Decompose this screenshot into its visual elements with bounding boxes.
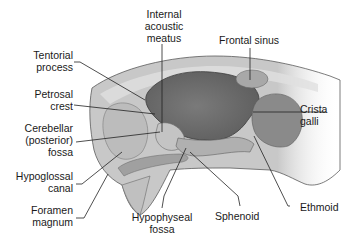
label-line: meatus [142, 32, 186, 44]
label-foramen-magnum: Foramen magnum [6, 204, 73, 228]
label-line: Crista [300, 103, 327, 115]
label-line: fossa [6, 146, 73, 158]
label-line: Tentorial [6, 49, 73, 61]
ethmoid-shape [252, 94, 302, 147]
label-cerebellar-fossa: Cerebellar (posterior) fossa [6, 122, 73, 158]
label-line: acoustic [142, 20, 186, 32]
label-sphenoid: Sphenoid [215, 210, 259, 222]
label-hypoglossal-canal: Hypoglossal canal [6, 170, 73, 194]
label-line: Hypophyseal [124, 211, 200, 223]
label-line: canal [6, 182, 73, 194]
label-line: Foramen [6, 204, 73, 216]
label-line: magnum [6, 216, 73, 228]
label-line: Cerebellar [6, 122, 73, 134]
label-line: fossa [124, 223, 200, 235]
label-ethmoid: Ethmoid [300, 201, 339, 213]
label-line: galli [300, 115, 327, 127]
label-line: Petrosal [6, 88, 73, 100]
label-crista-galli: Crista galli [300, 103, 327, 127]
leader-foramen-magnum [76, 174, 108, 218]
label-line: crest [6, 100, 73, 112]
label-line: (posterior) [6, 134, 73, 146]
label-hypophyseal-fossa: Hypophyseal fossa [124, 211, 200, 235]
label-line: Hypoglossal [6, 170, 73, 182]
frontal-sinus-shape [236, 70, 268, 88]
label-tentorial-process: Tentorial process [6, 49, 73, 73]
label-petrosal-crest: Petrosal crest [6, 88, 73, 112]
label-internal-acoustic-meatus: Internal acoustic meatus [142, 8, 186, 44]
label-line: process [6, 61, 73, 73]
label-frontal-sinus: Frontal sinus [219, 34, 279, 46]
label-line: Internal [142, 8, 186, 20]
